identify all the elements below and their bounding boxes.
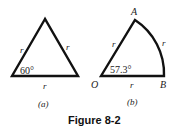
panel-a-label: (a) — [38, 99, 49, 109]
side-bottom-label: r — [43, 81, 47, 91]
panel-a: r r r 60° (a) — [12, 19, 78, 109]
side-ob-label: r — [130, 80, 134, 90]
figure-canvas: r r r 60° (a) A O B r r r 57.3° (b) Figu… — [0, 0, 179, 133]
panel-b: A O B r r r 57.3° (b) — [91, 6, 166, 107]
side-left-label: r — [20, 45, 24, 55]
vertex-b-label: B — [160, 79, 166, 90]
figure-caption: Figure 8-2 — [68, 114, 121, 126]
side-right-label: r — [66, 42, 70, 52]
panel-b-label: (b) — [127, 97, 138, 107]
vertex-o-label: O — [91, 79, 98, 90]
arc-ab-label: r — [162, 38, 166, 48]
side-oa-label: r — [112, 39, 116, 49]
vertex-a-label: A — [130, 6, 138, 17]
angle-label: 57.3° — [110, 64, 132, 75]
angle-label: 60° — [20, 65, 34, 76]
